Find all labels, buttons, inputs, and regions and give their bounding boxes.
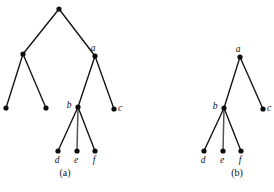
tree-node-unlabeled [56,6,61,11]
tree-edge-b-d [204,108,224,151]
tree-edge-b-f [78,107,95,151]
panel-b: abcdef(b) [201,44,272,179]
tree-node-label-a: a [91,43,96,53]
tree-node-label-e: e [74,155,78,165]
panel-caption-b: (b) [231,167,243,179]
tree-edge-a-c [95,56,114,109]
tree-node-unlabeled [3,105,8,110]
tree-node-c [111,106,116,111]
tree-node-d [55,148,60,153]
tree-node-label-c: c [118,103,123,113]
tree-node-label-a: a [236,44,241,54]
tree-node-unlabeled [20,51,25,56]
tree-diagram-groups: abcdef(a)abcdef(b) [3,6,271,179]
tree-node-f [238,148,243,153]
tree-node-label-e: e [220,155,224,165]
tree-node-label-d: d [201,155,206,165]
tree-node-label-d: d [55,155,60,165]
tree-node-d [201,148,206,153]
tree-node-b [75,104,80,109]
tree-node-e [74,148,79,153]
figure-container: abcdef(a)abcdef(b) [0,0,274,192]
tree-node-label-b: b [213,101,218,111]
tree-node-c [260,106,265,111]
tree-edge-b-d [58,107,78,151]
tree-edge-root-a [59,9,95,56]
tree-node-label-f: f [239,155,243,165]
tree-node-label-c: c [267,103,272,113]
tree-diagram-canvas: abcdef(a)abcdef(b) [0,0,274,192]
tree-edge-b-e [77,107,78,151]
tree-edge-root-left [23,9,59,54]
panel-caption-a: (a) [59,167,70,179]
tree-node-label-b: b [67,100,72,110]
tree-edge-b-e [223,108,224,151]
tree-node-a [92,53,97,58]
tree-node-a [237,54,242,59]
panel-a: abcdef(a) [3,6,122,179]
tree-node-label-f: f [93,155,97,165]
tree-edge-a-c [240,57,263,109]
tree-edge-left-ll [6,54,23,108]
tree-node-unlabeled [43,105,48,110]
tree-node-b [221,105,226,110]
tree-edge-left-lr [23,54,46,108]
tree-edge-a-b [224,57,240,108]
tree-edge-a-b [78,56,95,107]
tree-node-e [220,148,225,153]
tree-node-f [92,148,97,153]
tree-edge-b-f [224,108,241,151]
